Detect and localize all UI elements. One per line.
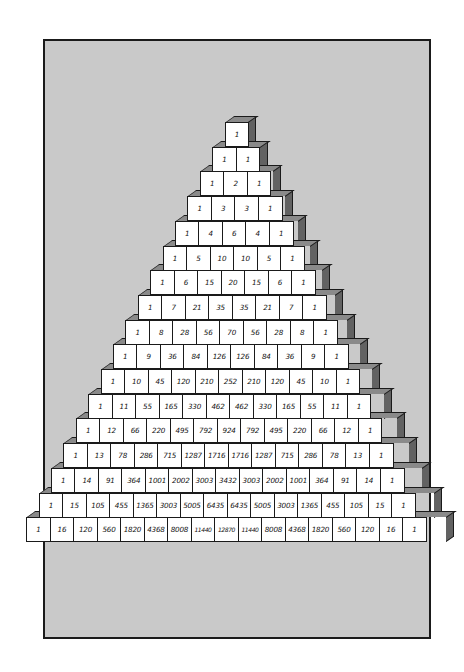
number-block: 210 [242,369,267,394]
number-block: 792 [193,418,218,443]
number-block: 165 [276,394,301,419]
number-block: 4368 [285,517,310,542]
number-block: 1820 [120,517,145,542]
number-block: 15 [197,270,222,295]
number-block: 84 [183,344,208,369]
number-block: 7 [279,295,304,320]
number-block: 9 [136,344,161,369]
number-block: 1 [76,418,101,443]
number-block: 20 [221,270,246,295]
number-block: 1 [101,369,126,394]
number-block: 2 [223,171,248,196]
number-block: 560 [332,517,357,542]
number-block: 78 [322,443,347,468]
number-block: 715 [275,443,300,468]
number-block: 2002 [262,468,287,493]
number-block: 6 [268,270,293,295]
triangle-row-14: 1149136410012002300334323003200210013649… [51,468,404,493]
pascal-triangle: 1111211331146411510105116152015611721353… [0,0,464,672]
number-block: 126 [230,344,255,369]
number-block: 14 [74,468,99,493]
number-block: 13 [345,443,370,468]
number-block: 1716 [228,443,253,468]
number-block: 1 [336,369,361,394]
number-block: 66 [123,418,148,443]
number-block: 28 [266,320,291,345]
number-block: 120 [73,517,98,542]
number-block: 3003 [274,493,299,518]
number-block: 1716 [204,443,229,468]
number-block: 36 [277,344,302,369]
number-block: 1 [358,418,383,443]
number-block: 1 [291,270,316,295]
number-block: 220 [146,418,171,443]
number-block: 36 [160,344,185,369]
number-block: 120 [265,369,290,394]
number-block: 28 [172,320,197,345]
number-block: 1365 [297,493,322,518]
number-block: 5 [186,246,211,271]
number-block: 1001 [286,468,311,493]
number-block: 1 [258,196,283,221]
number-block: 1 [212,147,237,172]
number-block: 126 [207,344,232,369]
number-block: 462 [229,394,254,419]
triangle-row-7: 172135352171 [138,295,326,320]
number-block: 8008 [261,517,286,542]
number-block: 91 [98,468,123,493]
number-block: 4 [198,221,223,246]
number-block: 6 [222,221,247,246]
number-block: 16 [50,517,75,542]
number-block: 3003 [192,468,217,493]
number-block: 6435 [227,493,252,518]
triangle-row-13: 11378286715128717161716128771528678131 [63,443,392,468]
number-block: 11440 [238,517,263,542]
number-block: 21 [255,295,280,320]
number-block: 45 [289,369,314,394]
number-block: 9 [301,344,326,369]
number-block: 1 [63,443,88,468]
number-block: 4368 [144,517,169,542]
number-block: 1 [26,517,51,542]
number-block: 15 [368,493,393,518]
number-block: 5 [257,246,282,271]
triangle-row-1: 11 [212,147,259,172]
number-block: 1287 [181,443,206,468]
number-block: 286 [298,443,323,468]
number-block: 3 [234,196,259,221]
number-block: 1 [150,270,175,295]
number-block: 120 [171,369,196,394]
number-block: 11440 [191,517,216,542]
triangle-row-11: 1115516533046246233016555111 [88,394,370,419]
number-block: 35 [208,295,233,320]
number-block: 3 [211,196,236,221]
number-block: 12 [99,418,124,443]
number-block: 56 [243,320,268,345]
triangle-row-2: 121 [200,171,271,196]
number-block: 10 [124,369,149,394]
number-block: 120 [355,517,380,542]
number-block: 1 [138,295,163,320]
number-block: 8 [290,320,315,345]
number-block: 1 [391,493,416,518]
number-block: 3432 [215,468,240,493]
number-block: 21 [185,295,210,320]
number-block: 2002 [168,468,193,493]
number-block: 3003 [239,468,264,493]
number-block: 1 [236,147,261,172]
triangle-row-3: 1331 [187,196,281,221]
number-block: 91 [333,468,358,493]
triangle-row-10: 1104512021025221012045101 [101,369,360,394]
number-block: 455 [109,493,134,518]
number-block: 1 [369,443,394,468]
triangle-row-15: 1151054551365300350056435643550053003136… [39,493,415,518]
number-block: 105 [344,493,369,518]
number-block: 13 [87,443,112,468]
number-block: 330 [253,394,278,419]
number-block: 462 [206,394,231,419]
number-block: 10 [312,369,337,394]
triangle-row-6: 1615201561 [150,270,315,295]
number-block: 8 [149,320,174,345]
number-block: 1 [302,295,327,320]
number-block: 165 [159,394,184,419]
